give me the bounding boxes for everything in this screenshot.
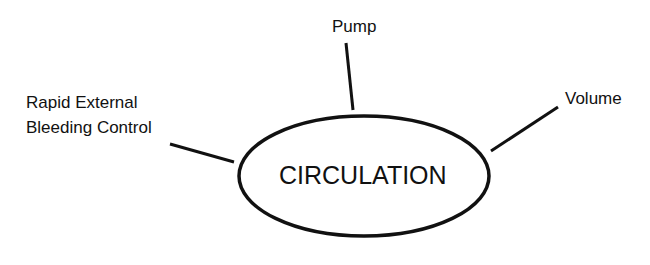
connector-volume [491,107,558,151]
node-volume-label: Volume [565,88,622,109]
connector-bleeding [170,144,234,162]
center-label: CIRCULATION [279,161,447,190]
node-bleeding-label-line1: Rapid External [26,92,138,113]
node-bleeding-label-line2: Bleeding Control [26,117,152,138]
connector-pump [346,43,353,110]
node-pump-label: Pump [332,16,376,37]
